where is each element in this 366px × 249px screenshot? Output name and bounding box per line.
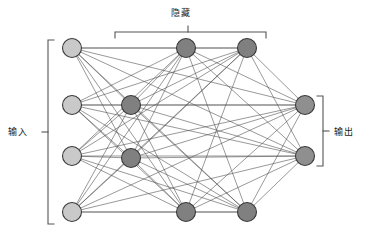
node-hidden-h3	[177, 39, 196, 58]
edge	[247, 48, 305, 105]
node-input-i3	[63, 147, 82, 166]
node-hidden-h5	[238, 39, 257, 58]
node-hidden-h2	[122, 149, 141, 168]
hidden-bracket	[115, 26, 266, 38]
edge	[72, 105, 305, 212]
edge	[72, 48, 247, 105]
edge	[72, 156, 247, 212]
network-graphic	[0, 0, 366, 249]
edge	[131, 158, 186, 212]
node-input-i4	[63, 203, 82, 222]
hidden-layer-label: 隐藏	[171, 9, 190, 18]
edge	[72, 48, 305, 156]
neural-network-diagram: 隐藏 输入 输出	[0, 0, 366, 249]
edge	[131, 48, 186, 105]
node-output-o2	[296, 147, 315, 166]
node-input-i1	[63, 39, 82, 58]
input-bracket	[42, 40, 54, 224]
node-hidden-h4	[177, 203, 196, 222]
input-layer-label: 输入	[8, 128, 27, 137]
edge	[186, 48, 305, 156]
edge	[131, 48, 247, 158]
output-bracket	[317, 96, 329, 166]
node-hidden-h6	[238, 203, 257, 222]
edges-layer	[72, 48, 305, 212]
edge	[72, 48, 247, 156]
node-input-i2	[63, 96, 82, 115]
edge	[247, 156, 305, 212]
node-hidden-h1	[122, 96, 141, 115]
edge	[186, 105, 305, 212]
output-layer-label: 输出	[334, 128, 353, 137]
node-output-o1	[296, 96, 315, 115]
